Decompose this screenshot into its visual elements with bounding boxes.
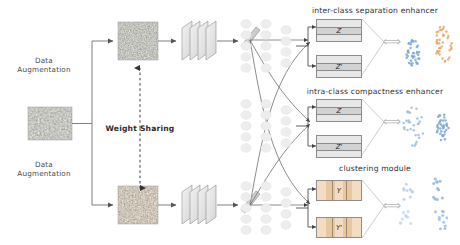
scatter-point <box>406 129 409 132</box>
scatter-intra-class <box>403 107 450 147</box>
scatter-point <box>407 49 410 52</box>
scatter-point <box>439 227 442 230</box>
scatter-point <box>444 119 447 122</box>
embedding-box-Z-intra-class[interactable] <box>316 99 362 122</box>
scatter-point <box>415 143 418 146</box>
scatter-point <box>435 52 438 55</box>
augmented-image-top <box>118 22 158 60</box>
scatter-point <box>414 40 417 43</box>
scatter-point <box>447 37 450 40</box>
scatter-point <box>409 222 412 225</box>
scatter-point <box>436 131 439 134</box>
augmented-image-bottom <box>118 186 158 224</box>
scatter-point <box>449 44 452 47</box>
scatter-point <box>402 187 405 190</box>
scatter-point <box>411 144 414 147</box>
scatter-point <box>438 216 441 219</box>
scatter-point <box>405 183 408 186</box>
scatter-point <box>437 115 440 118</box>
scatter-point <box>439 180 442 183</box>
scatter-point <box>410 107 413 110</box>
scatter-point <box>405 119 408 122</box>
scatter-point <box>446 125 449 128</box>
scatter-point <box>444 60 447 63</box>
scatter-point <box>418 57 421 60</box>
scatter-point <box>442 34 445 37</box>
scatter-point <box>443 116 446 119</box>
scatter-point <box>409 47 412 50</box>
assignment-box-Yp-clustering[interactable] <box>316 217 362 238</box>
scatter-point <box>399 222 402 225</box>
scatter-point <box>434 197 437 200</box>
scatter-point <box>417 123 420 126</box>
data-augmentation-label-top: Data Augmentation <box>6 56 82 74</box>
scatter-point <box>409 128 412 131</box>
scatter-point <box>438 47 441 50</box>
scatter-point <box>410 60 413 63</box>
scatter-point <box>442 221 445 224</box>
scatter-point <box>409 43 412 46</box>
scatter-point <box>445 216 448 219</box>
scatter-point <box>418 51 421 54</box>
module-title-inter-class: inter-class separation enhancer <box>300 6 450 15</box>
scatter-point <box>438 42 441 45</box>
diagram-canvas: Z Z' Z Z' Y Y' ⟺ ⟺ ⟺ inter-class separat… <box>0 0 460 245</box>
scatter-point <box>434 178 437 181</box>
scatter-point <box>436 42 439 45</box>
scatter-point <box>409 112 412 115</box>
scatter-point <box>405 53 408 56</box>
scatter-point <box>438 53 441 56</box>
embedding-box-Z-inter-class[interactable] <box>316 19 362 42</box>
scatter-point <box>447 35 450 38</box>
input-image <box>28 107 72 140</box>
image-to-encoder-arrows <box>158 41 176 205</box>
scatter-point <box>436 34 439 37</box>
scatter-point <box>444 224 447 227</box>
scatter-point <box>405 57 408 60</box>
assignment-box-Y-clustering[interactable] <box>316 180 362 201</box>
scatter-point <box>416 52 419 55</box>
mlp-head-clustering <box>241 182 291 235</box>
scatter-point <box>438 39 441 42</box>
scatter-point <box>412 56 415 59</box>
scatter-point <box>441 210 444 213</box>
scatter-point <box>409 196 412 199</box>
cnn-encoder-bottom <box>182 185 216 224</box>
scatter-point <box>411 64 414 67</box>
scatter-point <box>417 45 420 48</box>
scatter-point <box>439 28 442 31</box>
scatter-point <box>435 180 438 183</box>
scatter-inter-class <box>405 26 453 67</box>
embedding-box-Zp-inter-class[interactable] <box>316 55 362 78</box>
embedding-box-Zp-intra-class[interactable] <box>316 135 362 158</box>
scatter-point <box>406 189 409 192</box>
scatter-point <box>437 188 440 191</box>
scatter-point <box>414 58 417 61</box>
scatter-point <box>443 124 446 127</box>
equivalence-arrow-intra-class: ⟺ <box>379 114 405 130</box>
scatter-point <box>439 127 442 130</box>
scatter-point <box>411 62 414 65</box>
scatter-point <box>438 122 441 125</box>
scatter-point <box>401 217 404 220</box>
scatter-point <box>444 138 447 141</box>
scatter-point <box>417 134 420 137</box>
module-title-clustering: clustering module <box>310 164 440 173</box>
mlp-head-intra-class <box>241 100 291 153</box>
scatter-point <box>443 227 446 230</box>
equivalence-arrow-clustering: ⟺ <box>379 198 405 214</box>
scatter-point <box>407 119 410 122</box>
scatter-point <box>442 119 445 122</box>
scatter-point <box>441 57 444 60</box>
scatter-point <box>434 210 437 213</box>
module-title-intra-class: intra-class compactness enhancer <box>300 87 450 96</box>
scatter-point <box>441 197 444 200</box>
scatter-point <box>440 139 443 142</box>
scatter-point <box>443 113 446 116</box>
scatter-point <box>436 50 439 53</box>
scatter-point <box>441 134 444 137</box>
scatter-point <box>415 108 418 111</box>
equivalence-arrow-inter-class: ⟺ <box>379 34 405 50</box>
scatter-point <box>420 116 423 119</box>
scatter-point <box>445 30 448 33</box>
